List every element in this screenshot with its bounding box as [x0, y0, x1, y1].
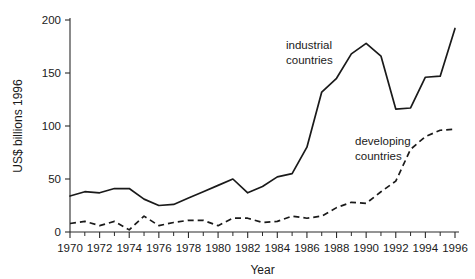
y-tick-label-50: 50: [48, 173, 61, 185]
x-tick-label-1992: 1992: [383, 242, 409, 254]
x-tick-label-1974: 1974: [116, 242, 142, 254]
chart-container: 0501001502001970197219741976197819801982…: [0, 0, 475, 279]
x-tick-label-1980: 1980: [205, 242, 231, 254]
x-tick-label-1990: 1990: [353, 242, 379, 254]
x-tick-label-1988: 1988: [324, 242, 350, 254]
x-tick-label-1972: 1972: [87, 242, 113, 254]
developing-countries-label: developingcountries: [355, 135, 411, 162]
x-tick-label-1976: 1976: [146, 242, 172, 254]
x-tick-label-1982: 1982: [235, 242, 261, 254]
x-tick-label-1994: 1994: [413, 242, 439, 254]
line-chart: 0501001502001970197219741976197819801982…: [0, 0, 475, 279]
x-tick-label-1986: 1986: [294, 242, 320, 254]
y-tick-label-200: 200: [42, 14, 61, 26]
y-tick-label-100: 100: [42, 120, 61, 132]
y-axis-label: US$ billions 1996: [11, 79, 25, 173]
x-tick-label-1970: 1970: [57, 242, 83, 254]
x-axis-label: Year: [250, 263, 274, 277]
y-tick-label-0: 0: [55, 226, 61, 238]
x-tick-label-1984: 1984: [265, 242, 291, 254]
x-tick-label-1996: 1996: [442, 242, 468, 254]
x-tick-label-1978: 1978: [176, 242, 202, 254]
y-tick-label-150: 150: [42, 67, 61, 79]
industrial-countries-label: industrialcountries: [286, 39, 333, 66]
